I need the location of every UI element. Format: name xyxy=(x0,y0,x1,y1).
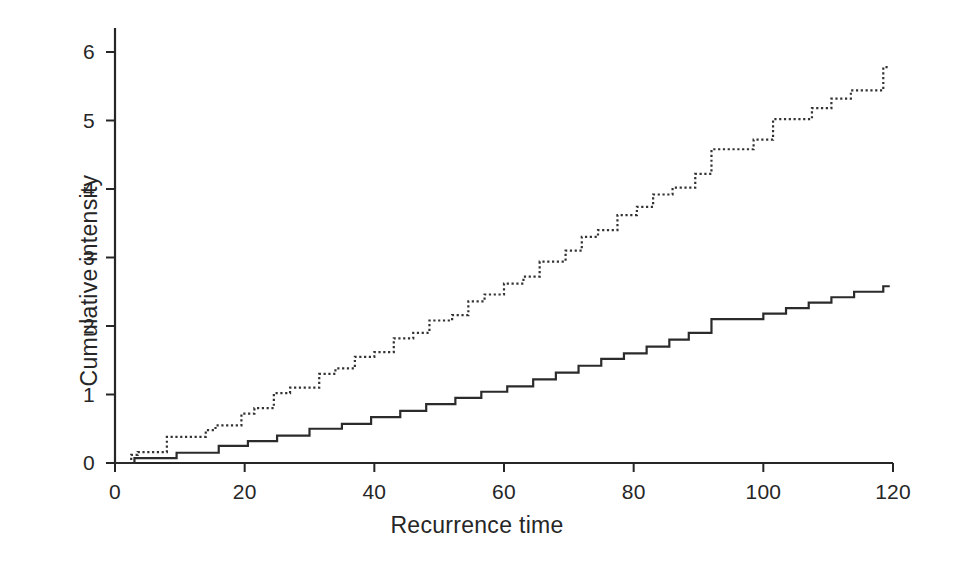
axes-group xyxy=(106,28,893,472)
x-tick-label: 80 xyxy=(622,480,646,504)
x-tick-label: 100 xyxy=(746,480,782,504)
x-tick-label: 40 xyxy=(362,480,386,504)
y-tick-label: 4 xyxy=(55,177,95,201)
series-group xyxy=(115,67,890,463)
y-tick-label: 2 xyxy=(55,314,95,338)
y-tick-label: 6 xyxy=(55,40,95,64)
x-tick-label: 0 xyxy=(109,480,121,504)
x-axis-label: Recurrence time xyxy=(0,512,954,539)
series-dotted-cumulative-intensity xyxy=(115,67,890,463)
y-tick-label: 3 xyxy=(55,246,95,270)
y-tick-label: 5 xyxy=(55,109,95,133)
x-tick-label: 20 xyxy=(233,480,257,504)
chart-plot-area xyxy=(0,0,954,561)
x-tick-label: 60 xyxy=(492,480,516,504)
y-tick-label: 0 xyxy=(55,451,95,475)
figure-container: 0123456 020406080100120 Recurrence time … xyxy=(0,0,954,561)
y-tick-label: 1 xyxy=(55,383,95,407)
series-solid-cumulative-intensity xyxy=(115,286,890,463)
x-tick-label: 120 xyxy=(875,480,911,504)
